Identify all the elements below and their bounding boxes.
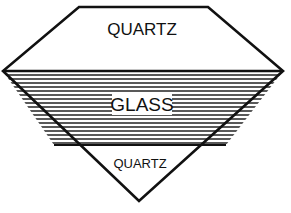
glass-label: GLASS (110, 94, 173, 115)
top-quartz-label: QUARTZ (107, 20, 177, 39)
gem-diagram: GLASS QUARTZ QUARTZ (0, 0, 291, 213)
bottom-quartz-label: QUARTZ (113, 156, 166, 171)
